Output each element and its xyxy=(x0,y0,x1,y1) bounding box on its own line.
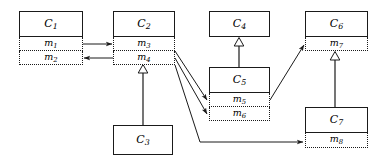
class-box-c2[interactable]: C2 xyxy=(113,11,175,37)
class-box-c6[interactable]: C6 xyxy=(305,11,368,37)
method-label-m7: m7 xyxy=(330,38,343,49)
class-label-c3: C3 xyxy=(136,134,149,147)
method-label-m4: m4 xyxy=(137,52,150,63)
class-box-c5[interactable]: C5 xyxy=(209,67,270,93)
uml-diagram: C1 m1 m2 C2 m3 m4 C3 C4 C5 m5 m6 C6 m7 C… xyxy=(0,0,381,164)
class-label-c7: C7 xyxy=(330,114,343,127)
class-box-c4[interactable]: C4 xyxy=(209,11,270,37)
method-row-m3[interactable]: m3 xyxy=(113,37,175,51)
class-label-c1: C1 xyxy=(44,18,57,31)
edge-m5-to-m7 xyxy=(270,45,304,100)
class-box-c7[interactable]: C7 xyxy=(305,107,368,133)
class-label-c5: C5 xyxy=(233,74,246,87)
method-row-m1[interactable]: m1 xyxy=(19,37,83,51)
method-row-m5[interactable]: m5 xyxy=(209,93,270,107)
method-label-m2: m2 xyxy=(44,52,57,63)
edge-m3-to-m5 xyxy=(175,51,207,100)
edge-c5-to-c4-inheritance xyxy=(234,38,244,68)
class-label-c4: C4 xyxy=(233,18,246,31)
method-label-m5: m5 xyxy=(233,94,246,105)
class-box-c1[interactable]: C1 xyxy=(19,11,83,37)
method-row-m8[interactable]: m8 xyxy=(305,133,368,148)
edge-c7-to-c6-inheritance xyxy=(330,52,340,108)
class-box-c3[interactable]: C3 xyxy=(113,125,173,155)
edge-m4-to-m6 xyxy=(175,58,207,114)
class-label-c2: C2 xyxy=(137,18,150,31)
method-label-m6: m6 xyxy=(233,108,246,119)
method-label-m1: m1 xyxy=(44,38,57,49)
method-label-m3: m3 xyxy=(137,38,150,49)
method-row-m2[interactable]: m2 xyxy=(19,51,83,65)
class-label-c6: C6 xyxy=(330,18,343,31)
method-row-m7[interactable]: m7 xyxy=(305,37,368,51)
method-row-m4[interactable]: m4 xyxy=(113,51,175,65)
method-row-m6[interactable]: m6 xyxy=(209,107,270,121)
method-label-m8: m8 xyxy=(330,134,343,145)
edge-c3-to-c2-inheritance xyxy=(138,65,148,126)
